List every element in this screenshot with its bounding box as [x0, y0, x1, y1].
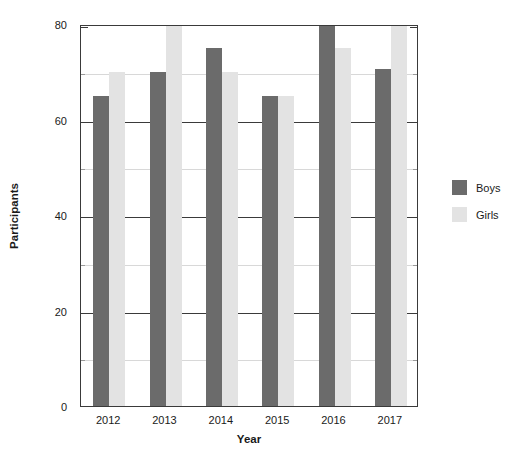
bar-girls-2016: [335, 48, 351, 406]
bar-group: [206, 26, 238, 406]
bar-girls-2015: [278, 96, 294, 406]
bar-group: [262, 26, 294, 406]
tick-mark-minor: [413, 360, 417, 361]
tick-mark-minor: [81, 360, 85, 361]
bar-girls-2013: [166, 25, 182, 406]
tick-mark-minor: [81, 265, 85, 266]
bar-boys-2015: [262, 96, 278, 406]
bar-group: [375, 26, 407, 406]
legend-item: Boys: [452, 180, 500, 195]
bars-layer: [81, 26, 417, 406]
x-axis-tick-label: 2012: [78, 414, 138, 426]
bar-group: [150, 26, 182, 406]
bar-chart: Participants 020406080 20122013201420152…: [0, 0, 525, 461]
bar-girls-2012: [109, 72, 125, 406]
bar-boys-2014: [206, 48, 222, 406]
y-axis-title: Participants: [8, 183, 20, 249]
x-axis-tick-label: 2015: [247, 414, 307, 426]
legend-label: Girls: [476, 209, 499, 221]
tick-mark-minor: [413, 169, 417, 170]
tick-mark-major: [81, 313, 88, 314]
x-axis-tick-label: 2016: [304, 414, 364, 426]
y-axis-tick-label: 80: [27, 19, 67, 31]
tick-mark-major: [410, 313, 417, 314]
tick-mark-major: [410, 122, 417, 123]
chart-legend: BoysGirls: [452, 180, 500, 222]
tick-mark-minor: [81, 74, 85, 75]
legend-swatch-icon: [452, 180, 467, 195]
bar-group: [93, 26, 125, 406]
tick-mark-minor: [81, 169, 85, 170]
tick-mark-major: [81, 122, 88, 123]
bar-girls-2014: [222, 72, 238, 406]
tick-mark-major: [410, 27, 417, 28]
legend-label: Boys: [476, 182, 500, 194]
y-axis-tick-label: 40: [27, 210, 67, 222]
tick-mark-major: [81, 217, 88, 218]
y-axis-tick-label: 20: [27, 306, 67, 318]
plot-area: [80, 25, 418, 407]
x-axis-tick-label: 2014: [191, 414, 251, 426]
bar-boys-2012: [93, 96, 109, 406]
bar-group: [319, 26, 351, 406]
tick-mark-minor: [413, 265, 417, 266]
x-axis-title: Year: [80, 433, 418, 445]
x-axis-tick-label: 2013: [135, 414, 195, 426]
x-axis-tick-label: 2017: [360, 414, 420, 426]
bar-boys-2017: [375, 69, 391, 406]
legend-item: Girls: [452, 207, 500, 222]
bar-boys-2013: [150, 72, 166, 406]
tick-mark-major: [410, 217, 417, 218]
tick-mark-major: [81, 27, 88, 28]
bar-girls-2017: [391, 25, 407, 406]
y-axis-tick-label: 60: [27, 115, 67, 127]
legend-swatch-icon: [452, 207, 467, 222]
y-axis-tick-label: 0: [27, 401, 67, 413]
tick-mark-minor: [413, 74, 417, 75]
bar-boys-2016: [319, 25, 335, 406]
